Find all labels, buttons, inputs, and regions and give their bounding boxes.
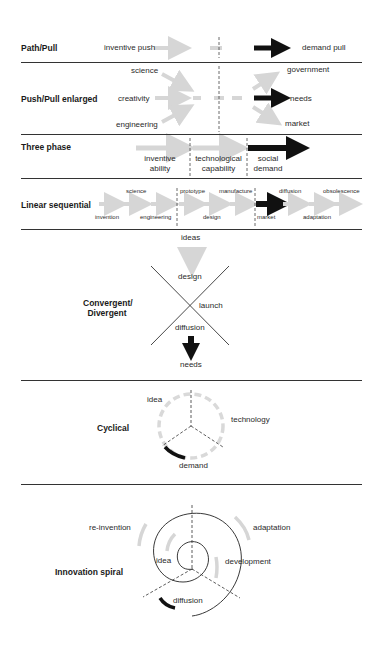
title-line: Convergent/ [83, 298, 131, 308]
creativity-label: creativity [118, 94, 150, 103]
design-step: design [203, 214, 221, 220]
push-pull-enlarged-title: Push/Pull enlarged [21, 94, 98, 104]
ideas-label: ideas [181, 233, 200, 242]
diffusion-step: diffusion [279, 188, 301, 194]
section-divider [21, 380, 362, 381]
cyclical-title: Cyclical [97, 423, 129, 433]
title-line: Divergent [83, 308, 131, 318]
phase-line: social [250, 154, 286, 164]
three-phase-title: Three phase [21, 142, 71, 152]
section-divider [21, 229, 362, 230]
cyclical-graphic [159, 390, 223, 458]
section-divider [21, 134, 362, 135]
phase-technological-capability: technological capability [191, 154, 246, 174]
linear-sequential-title: Linear sequential [21, 200, 91, 210]
technology-label: technology [231, 415, 270, 424]
launch-label: launch [199, 301, 223, 310]
section-divider [21, 484, 362, 485]
diffusion-label: diffusion [175, 323, 205, 332]
science-label: science [131, 66, 158, 75]
adaptation-step: adaptation [303, 214, 331, 220]
engineering-label: engineering [116, 120, 158, 129]
manufacture-step: manufacture [219, 188, 252, 194]
phase-line: ability [138, 164, 182, 174]
needs-label: needs [180, 360, 202, 369]
push-pull-enlarged-graphic [155, 66, 276, 132]
engineering-step: engineering [140, 214, 171, 220]
path-pull-title: Path/Pull [21, 43, 57, 53]
section-divider [21, 178, 362, 179]
inventive-push-label: inventive push [104, 43, 155, 52]
path-pull-graphic [154, 37, 276, 58]
diffusion-spiral-label: diffusion [173, 596, 203, 605]
phase-inventive-ability: inventive ability [138, 154, 182, 174]
re-invention-label: re-invention [89, 523, 131, 532]
phase-line: demand [250, 164, 286, 174]
needs-label: needs [290, 94, 312, 103]
phase-line: technological [191, 154, 246, 164]
invention-step: invention [95, 214, 119, 220]
demand-label: demand [179, 461, 208, 470]
government-label: government [287, 65, 329, 74]
idea-spiral-label: idea [156, 556, 171, 565]
market-step: market [257, 214, 275, 220]
convergent-divergent-title: Convergent/ Divergent [83, 298, 131, 318]
idea-label: idea [147, 395, 162, 404]
obsolescence-step: obsolescence [323, 188, 360, 194]
adaptation-label: adaptation [253, 523, 290, 532]
market-label: market [285, 119, 309, 128]
design-label: design [178, 272, 202, 281]
phase-line: inventive [138, 154, 182, 164]
phase-line: capability [191, 164, 246, 174]
science-step: science [126, 188, 146, 194]
development-label: development [225, 557, 271, 566]
phase-social-demand: social demand [250, 154, 286, 174]
demand-pull-label: demand pull [302, 43, 346, 52]
section-divider [21, 62, 362, 63]
prototype-step: prototype [180, 188, 205, 194]
innovation-spiral-title: Innovation spiral [55, 567, 123, 577]
convergent-divergent-graphic [151, 250, 229, 349]
